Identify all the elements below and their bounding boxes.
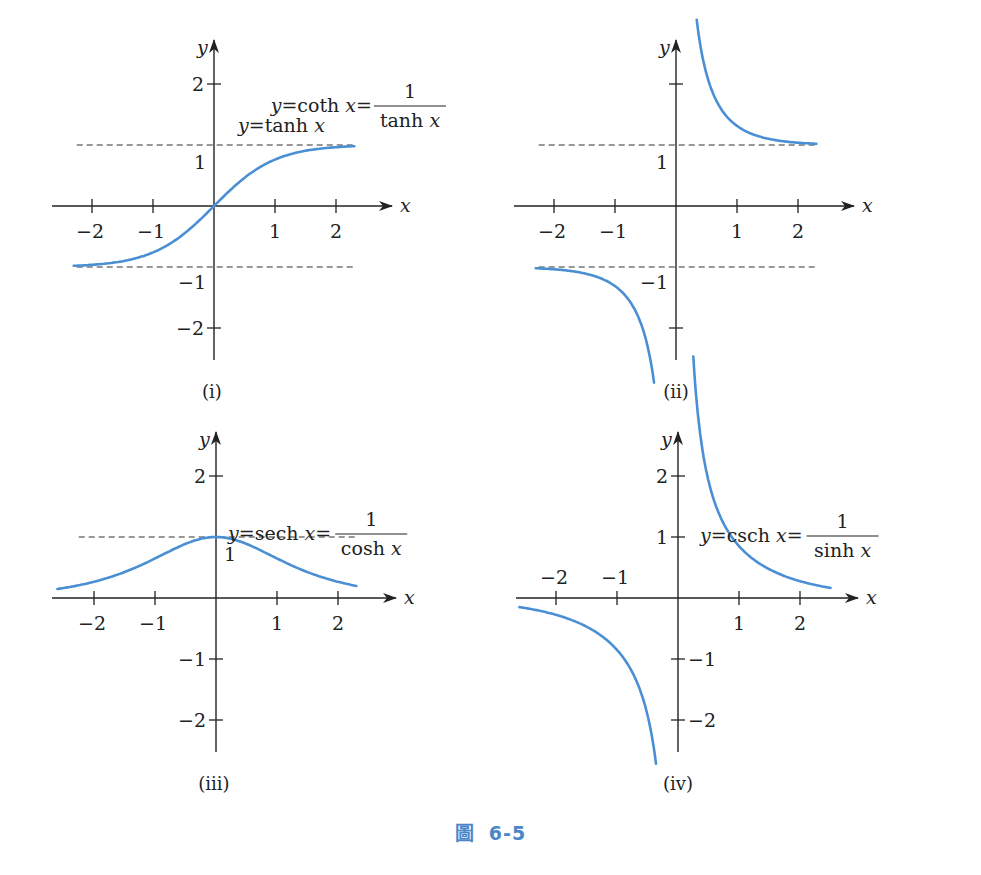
x-tick-label: 2 (794, 612, 806, 634)
y-tick-label: 2 (656, 465, 668, 487)
formula-label: y=tanh x (237, 114, 325, 136)
hyperbolic-functions-figure: xy−2−112−2−112y=tanh x xy−2−112−11y=coth… (0, 0, 981, 875)
fraction-numerator: 1 (365, 508, 377, 530)
function-curve (57, 537, 356, 589)
panel-tanh: xy−2−112−2−112y=tanh x (52, 36, 411, 360)
caption-number: 6-5 (489, 822, 526, 844)
y-tick-label: −2 (176, 317, 204, 339)
y-tick-label: −1 (178, 271, 206, 293)
y-tick-label: 1 (656, 526, 668, 548)
x-tick-label: −2 (540, 566, 568, 588)
y-tick-label: −1 (178, 648, 206, 670)
formula-label: y=coth x= (270, 94, 372, 116)
y-tick-label: −1 (688, 648, 716, 670)
fraction-numerator: 1 (837, 510, 849, 532)
y-tick-label: 2 (194, 465, 206, 487)
function-curve (519, 607, 656, 764)
x-axis-label: x (866, 586, 877, 608)
x-tick-label: 1 (269, 220, 281, 242)
y-tick-label: 1 (224, 543, 236, 565)
figure-caption: 圖6-5 (0, 818, 981, 845)
function-curve (697, 20, 817, 144)
formula-label: y=csch x= (699, 524, 803, 546)
panel-sech: xy−2−112−2−112y=sech x=1cosh x (52, 428, 415, 752)
x-tick-label: −1 (139, 612, 167, 634)
x-tick-label: 2 (330, 220, 342, 242)
x-tick-label: 1 (271, 612, 283, 634)
x-tick-label: −2 (76, 220, 104, 242)
y-axis-label: y (660, 428, 672, 450)
y-tick-label: 1 (194, 151, 206, 173)
y-tick-label: −2 (178, 709, 206, 731)
x-axis-label: x (404, 586, 415, 608)
panel-label-ii: (ii) (663, 381, 689, 402)
caption-prefix: 圖 (455, 822, 475, 844)
panel-coth: xy−2−112−11y=coth x=1tanh x (270, 20, 873, 383)
x-axis-label: x (862, 194, 873, 216)
fraction-denominator: tanh x (380, 109, 440, 131)
y-tick-label: 2 (192, 73, 204, 95)
x-tick-label: −2 (78, 612, 106, 634)
y-axis-label: y (198, 428, 210, 450)
fraction-denominator: sinh x (814, 539, 871, 561)
panel-label-iv: (iv) (663, 773, 693, 794)
fraction-numerator: 1 (404, 80, 416, 102)
y-axis-label: y (658, 36, 670, 58)
x-tick-label: 2 (332, 612, 344, 634)
formula-label: y=sech x= (227, 522, 331, 544)
panel-label-i: (i) (202, 381, 222, 402)
x-tick-label: 1 (733, 612, 745, 634)
panel-label-iii: (iii) (198, 773, 229, 794)
y-tick-label: 1 (656, 151, 668, 173)
y-axis-label: y (196, 36, 208, 58)
function-curve (693, 357, 830, 588)
x-tick-label: −1 (601, 566, 629, 588)
x-tick-label: 1 (731, 220, 743, 242)
x-tick-label: −2 (538, 220, 566, 242)
panel-csch: xy−2−112−2−112y=csch x=1sinh x (516, 357, 879, 764)
x-axis-label: x (400, 194, 411, 216)
fraction-denominator: cosh x (341, 537, 402, 559)
y-tick-label: −1 (640, 271, 668, 293)
y-tick-label: −2 (688, 709, 716, 731)
function-curve (536, 268, 654, 383)
x-tick-label: −1 (599, 220, 627, 242)
x-tick-label: 2 (792, 220, 804, 242)
x-tick-label: −1 (137, 220, 165, 242)
